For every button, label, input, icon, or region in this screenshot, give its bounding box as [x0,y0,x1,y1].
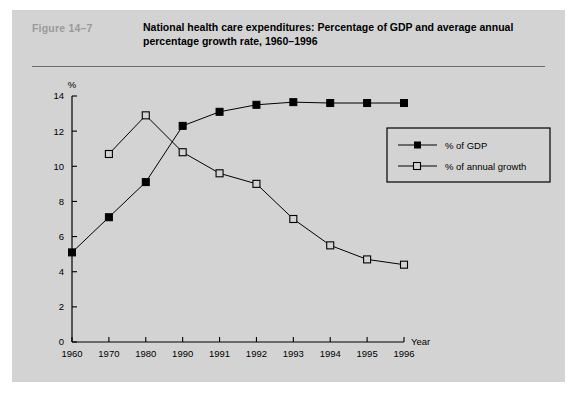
data-point-marker [179,122,186,129]
data-point-marker [142,112,149,119]
data-point-marker [364,256,371,263]
data-point-marker [253,101,260,108]
x-tick-label: 1996 [393,348,414,359]
data-point-marker [179,149,186,156]
x-tick-label: 1992 [246,348,267,359]
legend-marker-filled-square [414,142,421,149]
legend-label-growth: % of annual growth [445,161,526,172]
x-tick-label: 1991 [209,348,230,359]
x-tick-label: 1994 [320,348,341,359]
x-tick-label: 1993 [283,348,304,359]
series-line-1 [109,115,404,264]
chart-series-layer [69,99,408,269]
y-tick-label: 10 [53,161,64,172]
data-point-marker [105,150,112,157]
chart-axes [72,96,404,342]
data-point-marker [327,242,334,249]
data-point-marker [216,108,223,115]
x-axis-ticks: 1960197019801990199119921993199419951996 [61,337,414,359]
data-point-marker [364,100,371,107]
data-point-marker [290,99,297,106]
y-tick-label: 14 [53,90,64,101]
legend-box [387,128,550,182]
figure-panel: Figure 14–7 National health care expendi… [12,10,565,382]
data-point-marker [216,170,223,177]
y-axis-ticks: 02468101214 [53,90,77,347]
y-tick-label: 12 [53,126,64,137]
y-tick-label: 0 [59,336,64,347]
x-tick-label: 1990 [172,348,193,359]
data-point-marker [253,180,260,187]
data-point-marker [401,100,408,107]
x-tick-label: 1995 [357,348,378,359]
data-point-marker [105,214,112,221]
line-chart-svg: 02468101214 1960197019801990199119921993… [12,10,565,382]
x-axis-label: Year [411,336,430,347]
legend-label-gdp: % of GDP [445,140,487,151]
series-line-0 [72,102,404,252]
chart-plot-area: 02468101214 1960197019801990199119921993… [12,10,565,382]
y-axis-unit-label: % [68,79,77,90]
data-point-marker [69,249,76,256]
data-point-marker [327,100,334,107]
data-point-marker [401,261,408,268]
y-tick-label: 4 [59,266,64,277]
legend-marker-open-square [414,163,421,170]
data-point-marker [290,216,297,223]
x-tick-label: 1960 [61,348,82,359]
y-tick-label: 8 [59,196,64,207]
chart-legend: % of GDP % of annual growth [387,128,550,182]
x-tick-label: 1970 [98,348,119,359]
x-tick-label: 1980 [135,348,156,359]
data-point-marker [142,179,149,186]
y-tick-label: 2 [59,301,64,312]
y-tick-label: 6 [59,231,64,242]
